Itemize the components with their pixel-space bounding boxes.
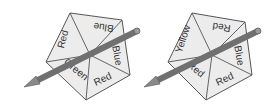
spinner-a: Blue Blue Red Green Red [24,13,140,100]
spinner-b: Red Blue Red Red Yellow [144,13,261,100]
spinners-diagram: Blue Blue Red Green Red Red Blue Red Red… [0,0,278,111]
